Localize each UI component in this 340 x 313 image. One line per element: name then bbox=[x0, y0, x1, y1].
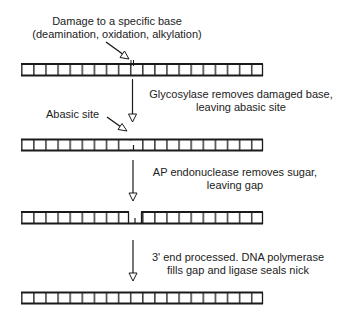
abasic-pointer-arrow bbox=[107, 117, 127, 131]
step2-label: AP endonuclease removes sugar, leaving g… bbox=[145, 166, 325, 192]
down-arrow-step2 bbox=[129, 160, 137, 201]
dna-strand-gapped bbox=[21, 212, 263, 224]
abasic-site-text: Abasic site bbox=[46, 108, 106, 121]
down-arrow-step1 bbox=[129, 80, 137, 122]
damage-label: Damage to a specific base (deamination, … bbox=[22, 15, 212, 41]
step2-label-line2: leaving gap bbox=[145, 179, 325, 192]
damage-pointer-arrow bbox=[106, 42, 129, 59]
step1-label: Glycosylase removes damaged base, leavin… bbox=[142, 88, 340, 114]
step2-label-line1: AP endonuclease removes sugar, bbox=[145, 166, 325, 179]
abasic-site-label: Abasic site bbox=[46, 108, 106, 121]
dna-strand-repaired bbox=[21, 293, 263, 305]
step3-label-line1: 3' end processed. DNA polymerase bbox=[148, 251, 328, 264]
dna-strand-damaged bbox=[21, 60, 263, 84]
dna-strand-abasic bbox=[21, 140, 263, 152]
step3-label-line2: fills gap and ligase seals nick bbox=[148, 264, 328, 277]
step1-label-line1: Glycosylase removes damaged base, bbox=[142, 88, 340, 101]
step3-label: 3' end processed. DNA polymerase fills g… bbox=[148, 251, 328, 277]
down-arrow-step3 bbox=[129, 240, 137, 281]
damage-label-line2: (deamination, oxidation, alkylation) bbox=[22, 28, 212, 41]
step1-label-line2: leaving abasic site bbox=[142, 101, 340, 114]
damage-label-line1: Damage to a specific base bbox=[22, 15, 212, 28]
